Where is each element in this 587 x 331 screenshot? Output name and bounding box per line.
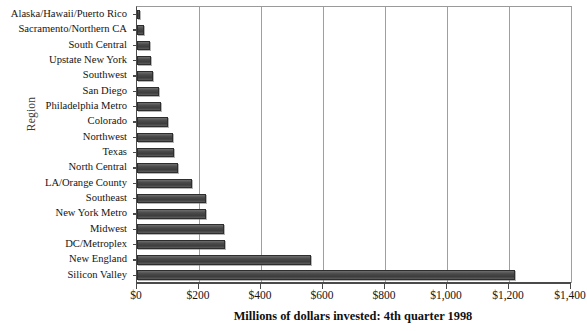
bar-row xyxy=(137,268,571,283)
bar xyxy=(137,71,153,81)
category-label: DC/Metroplex xyxy=(65,238,127,249)
category-label: San Diego xyxy=(83,85,127,96)
category-tick xyxy=(133,29,137,30)
bar-row xyxy=(137,145,571,160)
gridline xyxy=(571,7,572,283)
category-label: Texas xyxy=(102,146,127,157)
bar xyxy=(137,133,173,143)
category-label: Midwest xyxy=(90,223,127,234)
category-label: Southwest xyxy=(83,69,127,80)
bar-row xyxy=(137,237,571,252)
category-tick xyxy=(133,14,137,15)
bar xyxy=(137,209,206,219)
category-label-row: Philadelphia Metro xyxy=(0,98,131,113)
category-label-row: New York Metro xyxy=(0,205,131,220)
category-label-row: New England xyxy=(0,251,131,266)
bar xyxy=(137,163,178,173)
bar-row xyxy=(137,68,571,83)
category-label-row: Southeast xyxy=(0,190,131,205)
bar xyxy=(137,102,161,112)
category-axis-labels: Alaska/Hawaii/Puerto RicoSacramento/Nort… xyxy=(0,6,131,282)
bar-row xyxy=(137,38,571,53)
category-label: Philadelphia Metro xyxy=(46,100,128,111)
x-axis-tick-label: $200 xyxy=(187,289,210,301)
x-axis-tick-label: $800 xyxy=(373,289,396,301)
category-label-row: Sacramento/Northern CA xyxy=(0,21,131,36)
bar-row xyxy=(137,84,571,99)
bar xyxy=(137,240,225,250)
category-tick xyxy=(133,106,137,107)
bar-row xyxy=(137,114,571,129)
x-axis-tick-label: $1,000 xyxy=(430,289,462,301)
category-label: LA/Orange County xyxy=(45,177,127,188)
category-label-row: Midwest xyxy=(0,221,131,236)
category-label: Southeast xyxy=(86,192,127,203)
category-label: Alaska/Hawaii/Puerto Rico xyxy=(11,8,127,19)
bar-row xyxy=(137,191,571,206)
category-label: North Central xyxy=(68,161,127,172)
category-label-row: Northwest xyxy=(0,129,131,144)
category-tick xyxy=(133,229,137,230)
category-label: New York Metro xyxy=(55,207,127,218)
category-tick xyxy=(133,152,137,153)
bar xyxy=(137,56,151,66)
category-label-row: Upstate New York xyxy=(0,52,131,67)
x-axis-tick-label: $0 xyxy=(130,289,142,301)
bar-row xyxy=(137,99,571,114)
bar-row xyxy=(137,160,571,175)
category-tick xyxy=(133,45,137,46)
bar xyxy=(137,270,515,280)
category-label-row: DC/Metroplex xyxy=(0,236,131,251)
bar xyxy=(137,224,224,234)
bar xyxy=(137,41,150,51)
category-label-row: San Diego xyxy=(0,83,131,98)
category-tick xyxy=(133,275,137,276)
category-tick xyxy=(133,60,137,61)
bar xyxy=(137,117,168,127)
x-axis-tick-label: $1,400 xyxy=(554,289,586,301)
bar-row xyxy=(137,130,571,145)
category-label-row: South Central xyxy=(0,37,131,52)
x-axis-tick-labels: $0$200$400$600$800$1,000$1,200$1,400 xyxy=(136,289,570,305)
bar-row xyxy=(137,222,571,237)
bar-row xyxy=(137,22,571,37)
plot-area xyxy=(136,6,572,283)
bar xyxy=(137,255,311,265)
category-tick xyxy=(133,244,137,245)
category-tick xyxy=(133,121,137,122)
category-label-row: Colorado xyxy=(0,113,131,128)
bar-row xyxy=(137,7,571,22)
bar xyxy=(137,25,144,35)
category-label: New England xyxy=(69,253,127,264)
bar-row xyxy=(137,252,571,267)
category-label-row: Texas xyxy=(0,144,131,159)
bar xyxy=(137,179,192,189)
x-axis-tick-label: $600 xyxy=(311,289,334,301)
category-tick xyxy=(133,75,137,76)
x-axis-tick-label: $400 xyxy=(249,289,272,301)
category-label-row: LA/Orange County xyxy=(0,175,131,190)
bar-row xyxy=(137,53,571,68)
x-axis-tick-label: $1,200 xyxy=(492,289,524,301)
bar xyxy=(137,10,140,20)
category-label: Upstate New York xyxy=(49,54,127,65)
category-label-row: Alaska/Hawaii/Puerto Rico xyxy=(0,6,131,21)
bars-layer xyxy=(137,7,571,283)
bar-chart: Region Alaska/Hawaii/Puerto RicoSacramen… xyxy=(0,0,587,331)
bar-row xyxy=(137,176,571,191)
category-label-row: Silicon Valley xyxy=(0,267,131,282)
bar-row xyxy=(137,206,571,221)
bar xyxy=(137,194,206,204)
category-label: South Central xyxy=(68,39,127,50)
category-tick xyxy=(133,137,137,138)
x-axis-title: Millions of dollars invested: 4th quarte… xyxy=(136,309,570,324)
category-tick xyxy=(133,183,137,184)
category-tick xyxy=(133,259,137,260)
category-tick xyxy=(133,91,137,92)
category-label: Northwest xyxy=(83,131,127,142)
bar xyxy=(137,87,159,97)
category-tick xyxy=(133,213,137,214)
category-label-row: North Central xyxy=(0,159,131,174)
bar xyxy=(137,148,174,158)
category-label-row: Southwest xyxy=(0,67,131,82)
